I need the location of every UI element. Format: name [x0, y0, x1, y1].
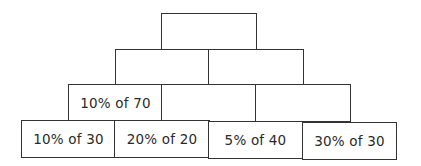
number-pyramid: 10% of 70 10% of 30 20% of 20 5% of 40 3… — [0, 0, 421, 166]
pyramid-brick-r4-c1[interactable]: 10% of 30 — [21, 120, 116, 158]
pyramid-brick-r3-c3[interactable] — [255, 84, 351, 122]
pyramid-brick-r4-c4[interactable]: 30% of 30 — [302, 122, 397, 160]
pyramid-brick-r2-c2[interactable] — [208, 49, 304, 86]
pyramid-brick-r1-c1[interactable] — [161, 13, 257, 51]
pyramid-brick-r3-c2[interactable] — [161, 84, 257, 122]
pyramid-brick-r2-c1[interactable] — [115, 49, 210, 86]
pyramid-brick-r3-c1[interactable]: 10% of 70 — [68, 84, 163, 122]
pyramid-brick-r4-c3[interactable]: 5% of 40 — [208, 121, 303, 159]
pyramid-brick-r4-c2[interactable]: 20% of 20 — [114, 120, 210, 158]
